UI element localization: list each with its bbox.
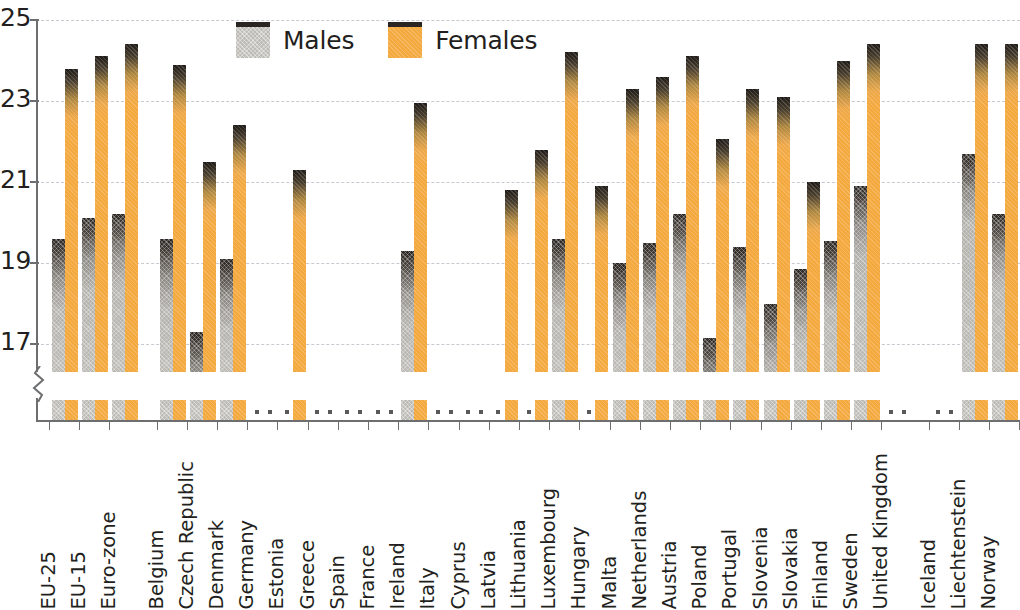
bar-male [643,243,656,372]
bar-stub-female [867,400,880,420]
missing-data-marker [280,409,293,415]
x-axis-label-united-kingdom: United Kingdom [890,434,914,609]
bar-stub-male [220,400,233,420]
missing-data-dot [449,410,453,414]
x-axis-label-text: Belgium [146,529,166,609]
bar-female [656,77,669,372]
x-axis-label-text: Denmark [207,519,227,609]
x-tick-mark [109,422,110,430]
missing-data-dot [436,410,440,414]
bar-male [794,269,807,372]
x-axis-label-text: Ireland [388,542,408,609]
x-axis-label-norway: Norway [998,434,1020,609]
bar-stub-female [777,400,790,420]
bar-stub-male [733,400,746,420]
x-tick-mark [881,422,882,430]
x-tick-mark [217,422,218,430]
bar-female [837,61,850,373]
x-tick-mark [851,422,852,430]
bar-male [992,214,1005,372]
bar-stub-female [686,400,699,420]
bar-stub-female [203,400,216,420]
bar-male [764,304,777,373]
x-axis-label-text: France [358,544,378,609]
missing-data-dot [527,410,531,414]
legend-entry-females: Females [388,22,537,58]
bar-stub-female [125,400,138,420]
x-axis-label-text: Latvia [478,550,498,609]
x-tick-mark [428,422,429,430]
missing-data-dot [949,410,953,414]
bar-male [220,259,233,372]
x-axis-label-text: Hungary [569,526,589,609]
missing-data-dot [466,410,470,414]
x-axis-label-text: Portugal [720,528,740,609]
x-axis-label-text: Norway [979,535,999,609]
missing-data-dot [902,410,906,414]
bar-stub-male [552,400,565,420]
x-axis-label-text: Liechtenstein [948,478,968,609]
x-tick-mark [157,422,158,430]
missing-data-dot [496,410,500,414]
bar-female [233,125,246,372]
bar-stub-female [595,400,608,420]
x-axis-label-text: Lithuania [509,519,529,609]
bar-female [505,190,518,372]
x-tick-mark [79,422,80,430]
legend-label-females: Females [435,26,537,55]
bar-stub-male [992,400,1005,420]
x-axis-line [36,420,1020,422]
missing-data-marker [522,409,535,415]
bar-stub-male [854,400,867,420]
x-tick-mark [989,422,990,430]
bar-female [867,44,880,372]
bar-stub-female [95,400,108,420]
bar-female [595,186,608,372]
x-tick-mark [959,422,960,430]
missing-data-dot [936,410,940,414]
bar-female [414,103,427,372]
x-tick-mark [459,422,460,430]
bar-stub-female [535,400,548,420]
bar-stub-male [703,400,716,420]
x-tick-mark [187,422,188,430]
x-tick-mark [730,422,731,430]
bar-male [552,239,565,372]
bar-stub-female [1005,400,1018,420]
bar-stub-male [764,400,777,420]
missing-data-marker [932,409,958,415]
y-tick-label: 25 [0,3,30,32]
x-axis-label-text: Germany [237,519,257,609]
y-tick-label: 21 [0,165,30,194]
x-axis-label-text: EU-15 [69,551,89,609]
bar-stub-female [807,400,820,420]
missing-data-dot [389,410,393,414]
bar-stub-female [626,400,639,420]
bar-stub-female [746,400,759,420]
bar-female [95,56,108,372]
bar-female [1005,44,1018,372]
chart-legend: MalesFemales [236,22,537,58]
missing-data-dot [268,410,272,414]
bar-stub-male [613,400,626,420]
bar-stub-male [52,400,65,420]
axis-break-zigzag-icon [26,366,50,402]
x-axis-label-text: Netherlands [629,490,649,609]
legend-swatch-males [236,22,270,58]
x-tick-mark [489,422,490,430]
x-tick-mark [929,422,930,430]
missing-data-dot [376,410,380,414]
x-axis-label-text: Cyprus [448,541,468,609]
bar-stub-male [794,400,807,420]
bar-stub-male [82,400,95,420]
bar-stub-male [190,400,203,420]
x-axis-label-text: Euro-zone [99,511,119,609]
bar-female [975,44,988,372]
bar-stub-female [65,400,78,420]
missing-data-marker [884,409,910,415]
x-axis-label-text: Czech Republic [176,461,196,609]
bar-male [401,251,414,372]
bar-female [535,150,548,372]
x-axis-label-text: Greece [297,540,317,609]
bar-stub-female [716,400,729,420]
